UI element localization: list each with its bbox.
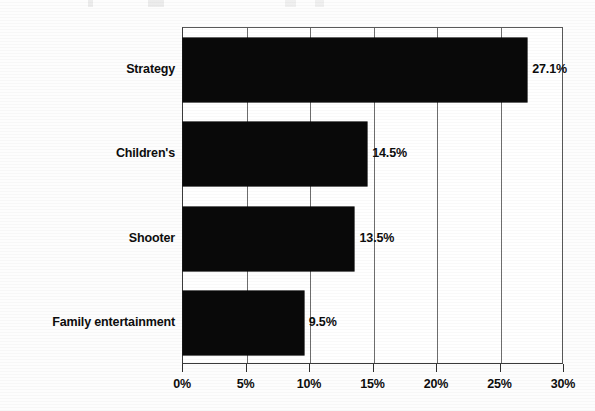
bar-value-label: 27.1% [532,62,567,76]
bar-band [183,28,562,112]
bar [183,38,527,102]
bar [183,207,354,271]
category-label: Shooter [0,231,175,245]
bar [183,122,367,186]
bar-value-label: 13.5% [359,231,394,245]
x-tick-mark [246,364,247,372]
x-tick-label: 0% [173,377,191,391]
x-tick-label: 10% [297,377,321,391]
x-tick-mark [373,364,374,372]
bar [183,291,304,355]
x-tick-mark [500,364,501,372]
cropped-title-remnant [40,0,340,7]
bar-chart-figure: StrategyChildren'sShooterFamily entertai… [0,0,595,411]
plot-area [182,27,563,364]
category-label: Children's [0,146,175,160]
bar-value-label: 9.5% [309,315,337,329]
x-tick-label: 30% [551,377,575,391]
x-tick-label: 20% [424,377,448,391]
x-tick-mark [309,364,310,372]
x-tick-mark [436,364,437,372]
category-axis-labels: StrategyChildren'sShooterFamily entertai… [0,27,175,364]
category-label: Family entertainment [0,315,175,329]
x-tick-label: 15% [360,377,384,391]
x-tick-mark [182,364,183,372]
x-tick-label: 5% [237,377,255,391]
bar-value-label: 14.5% [372,146,407,160]
x-tick-label: 25% [487,377,511,391]
bar-band [183,281,562,365]
category-label: Strategy [0,62,175,76]
x-tick-mark [563,364,564,372]
